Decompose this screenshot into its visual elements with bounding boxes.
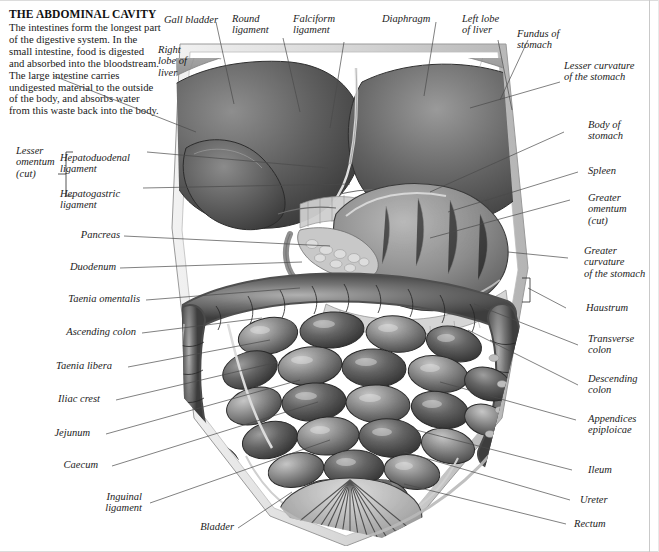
label-diaphragm: Diaphragm — [382, 13, 452, 24]
label-descending-colon: Descending colon — [588, 373, 658, 396]
intro-paragraph: The intestines form the longest part of … — [9, 22, 161, 117]
label-transverse-colon: Transverse colon — [588, 333, 658, 356]
frame-top-rule — [0, 0, 659, 1]
label-greater-curvature-of-the-stomach: Greater curvature of the stomach — [584, 245, 658, 279]
label-greater-omentum-cut: Greater omentum (cut) — [588, 192, 654, 226]
label-right-lobe-of-liver: Right lobe of liver — [158, 44, 198, 78]
label-jejunum: Jejunum — [28, 427, 90, 438]
abdominal-cavity-illustration — [150, 18, 550, 546]
label-haustrum: Haustrum — [586, 302, 652, 313]
label-bladder: Bladder — [176, 521, 234, 532]
label-ileum: Ileum — [588, 464, 638, 475]
caecum — [184, 444, 240, 492]
label-fundus-of-stomach: Fundus of stomach — [517, 28, 583, 51]
label-left-lobe-of-liver: Left lobe of liver — [462, 13, 524, 36]
label-inguinal-ligament: Inguinal ligament — [74, 491, 142, 514]
label-spleen: Spleen — [588, 165, 648, 176]
label-gall-bladder: Gall bladder — [156, 14, 218, 25]
label-ascending-colon: Ascending colon — [28, 326, 136, 337]
intro-text-block: THE ABDOMINAL CAVITY The intestines form… — [9, 8, 161, 117]
label-appendices-epiploicae: Appendices epiploicae — [588, 413, 658, 436]
label-body-of-stomach: Body of stomach — [588, 119, 654, 142]
label-hepatoduodenal-ligament: Hepatoduodenal ligament — [60, 152, 150, 175]
label-rectum: Rectum — [574, 518, 628, 529]
label-taenia-libera: Taenia libera — [28, 360, 112, 371]
label-round-ligament: Round ligament — [232, 13, 294, 36]
label-iliac-crest: Iliac crest — [28, 393, 100, 404]
label-ureter: Ureter — [580, 494, 632, 505]
label-taenia-omentalis: Taenia omentalis — [28, 293, 140, 304]
label-falciform-ligament: Falciform ligament — [293, 13, 363, 36]
label-pancreas: Pancreas — [44, 229, 120, 240]
label-duodenum: Duodenum — [40, 261, 116, 272]
figure-page: THE ABDOMINAL CAVITY The intestines form… — [0, 0, 659, 552]
label-caecum: Caecum — [36, 459, 98, 470]
label-hepatogastric-ligament: Hepatogastric ligament — [60, 188, 148, 211]
page-title: THE ABDOMINAL CAVITY — [9, 8, 161, 21]
label-lesser-curvature-of-the-stomach: Lesser curvature of the stomach — [564, 60, 659, 83]
